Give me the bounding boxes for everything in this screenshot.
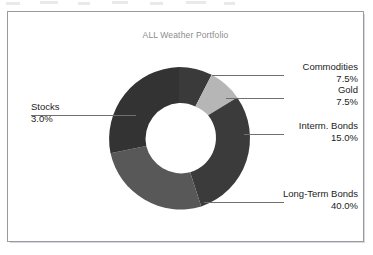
callout-stocks-label: Stocks — [31, 101, 60, 113]
callout-commodities-label: Commodities — [303, 61, 358, 73]
leader-line-gold — [226, 98, 284, 99]
callout-commodities[interactable]: Commodities 7.5% — [303, 61, 358, 84]
callout-commodities-value: 7.5% — [303, 73, 358, 85]
callout-stocks[interactable]: Stocks 3.0% — [31, 101, 60, 124]
slice-stocks[interactable] — [109, 67, 179, 153]
leader-line-interm-bonds — [244, 134, 284, 135]
callout-interm-bonds-value: 15.0% — [299, 132, 358, 144]
callout-stocks-value: 3.0% — [31, 113, 60, 125]
callout-interm-bonds[interactable]: Interm. Bonds 15.0% — [299, 120, 358, 143]
callout-long-term-bonds-value: 40.0% — [283, 200, 358, 212]
chart-frame: ALL Weather Portfolio Commodities 7.5% G… — [7, 11, 364, 242]
slice-long-term-bonds[interactable] — [111, 146, 202, 209]
callout-interm-bonds-label: Interm. Bonds — [299, 120, 358, 132]
scan-artifacts — [0, 0, 373, 11]
callout-gold-label: Gold — [336, 84, 358, 96]
callout-long-term-bonds-label: Long-Term Bonds — [283, 188, 358, 200]
donut-slices — [109, 67, 250, 209]
callout-gold[interactable]: Gold 7.5% — [336, 84, 358, 107]
callout-gold-value: 7.5% — [336, 96, 358, 108]
callout-long-term-bonds[interactable]: Long-Term Bonds 40.0% — [283, 188, 358, 211]
leader-line-long-term-bonds — [204, 202, 284, 203]
slice-interm-bonds[interactable] — [190, 97, 250, 206]
leader-line-commodities — [212, 75, 284, 76]
